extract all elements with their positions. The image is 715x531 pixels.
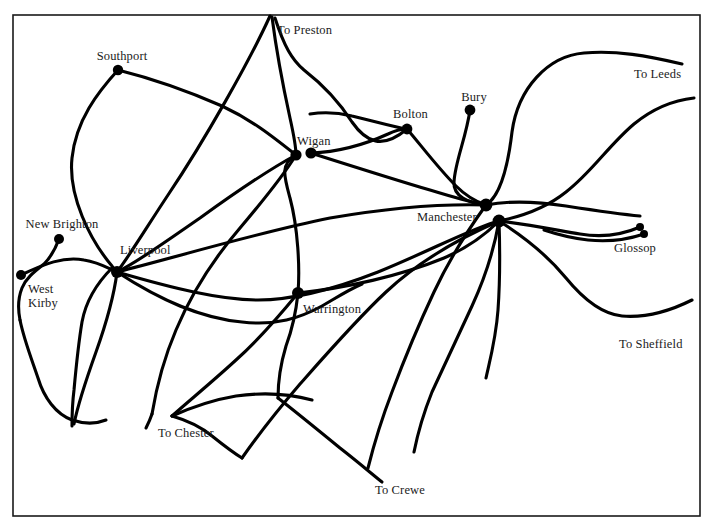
route-line-liverpool-south-1 <box>74 272 117 424</box>
station-label-warrington: Warrington <box>303 302 361 316</box>
station-dot-wigan-east[interactable] <box>305 147 316 158</box>
edge-label-to-preston-line-1: To Preston <box>277 23 332 37</box>
edge-label-to-leeds: To Leeds <box>634 67 681 81</box>
station-label-new-brighton-line-1: New Brighton <box>26 217 99 231</box>
station-label-manchester-se: Manchester <box>417 210 477 224</box>
route-line-chester-branch-tail <box>146 414 152 428</box>
route-line-mcr-to-glossop <box>499 221 640 236</box>
route-line-mcr-south-2 <box>414 221 499 452</box>
station-dot-manchester-se[interactable] <box>493 215 506 228</box>
route-line-preston-to-wigan <box>272 17 296 155</box>
edge-label-to-chester-line-1: To Chester <box>158 426 214 440</box>
edge-label-to-leeds-line-1: To Leeds <box>634 67 681 81</box>
station-dot-glossop-s[interactable] <box>640 230 648 238</box>
route-line-southport-to-liverpool <box>72 70 118 272</box>
edge-label-to-chester: To Chester <box>158 426 214 440</box>
edge-label-to-sheffield-line-1: To Sheffield <box>619 337 683 351</box>
station-label-bury-line-1: Bury <box>461 90 487 104</box>
edge-label-to-preston: To Preston <box>277 23 332 37</box>
station-dot-manchester-nw[interactable] <box>480 199 493 212</box>
edge-label-to-crewe-line-1: To Crewe <box>375 483 425 497</box>
route-line-warrington-south-spur <box>278 293 298 398</box>
route-line-chester-branch <box>152 155 296 414</box>
station-label-warrington-line-1: Warrington <box>303 302 361 316</box>
station-label-west-kirby: WestKirby <box>28 282 58 310</box>
station-label-manchester-se-line-1: Manchester <box>417 210 477 224</box>
station-label-glossop-s-line-1: Glossop <box>614 241 656 255</box>
map-canvas <box>0 0 715 531</box>
route-line-mcr-far-east-arc <box>486 202 640 216</box>
station-label-new-brighton: New Brighton <box>26 217 99 231</box>
edge-label-to-crewe: To Crewe <box>375 483 425 497</box>
station-label-west-kirby-line-2: Kirby <box>28 296 58 310</box>
station-label-wigan-east-line-1: Wigan <box>297 134 331 148</box>
station-dot-bolton[interactable] <box>402 124 413 135</box>
station-dot-west-kirby[interactable] <box>16 270 26 280</box>
route-line-crewe-branch <box>278 398 382 482</box>
edge-label-to-sheffield: To Sheffield <box>619 337 683 351</box>
station-dot-warrington[interactable] <box>292 287 304 299</box>
station-dot-wigan-west[interactable] <box>290 149 301 160</box>
route-line-mcr-sw-to-chester <box>242 221 499 458</box>
station-label-bury: Bury <box>461 90 487 104</box>
map-border-frame <box>13 15 700 516</box>
station-dot-southport[interactable] <box>113 65 123 75</box>
station-label-wigan-east: Wigan <box>297 134 331 148</box>
route-line-bury-to-manchester <box>454 110 486 205</box>
station-label-southport: Southport <box>97 49 148 63</box>
station-label-west-kirby-line-1: West <box>28 282 58 296</box>
route-line-southport-to-wigan <box>118 70 296 155</box>
route-line-wirral-line-south <box>20 320 106 423</box>
station-dot-liverpool[interactable] <box>111 266 123 278</box>
station-label-liverpool: Liverpool <box>120 243 171 257</box>
station-label-bolton-line-1: Bolton <box>393 107 428 121</box>
station-dot-glossop-n[interactable] <box>636 223 644 231</box>
station-dot-bury[interactable] <box>465 105 476 116</box>
station-label-southport-line-1: Southport <box>97 49 148 63</box>
route-line-wigan-to-manchester-upper <box>311 153 486 205</box>
station-label-liverpool-line-1: Liverpool <box>120 243 171 257</box>
station-label-glossop-s: Glossop <box>614 241 656 255</box>
rail-network-map: SouthportNew BrightonWestKirbyLiverpoolW… <box>0 0 715 531</box>
route-line-warrington-north-spur <box>285 155 299 293</box>
station-dot-new-brighton[interactable] <box>54 234 64 244</box>
station-label-bolton: Bolton <box>393 107 428 121</box>
